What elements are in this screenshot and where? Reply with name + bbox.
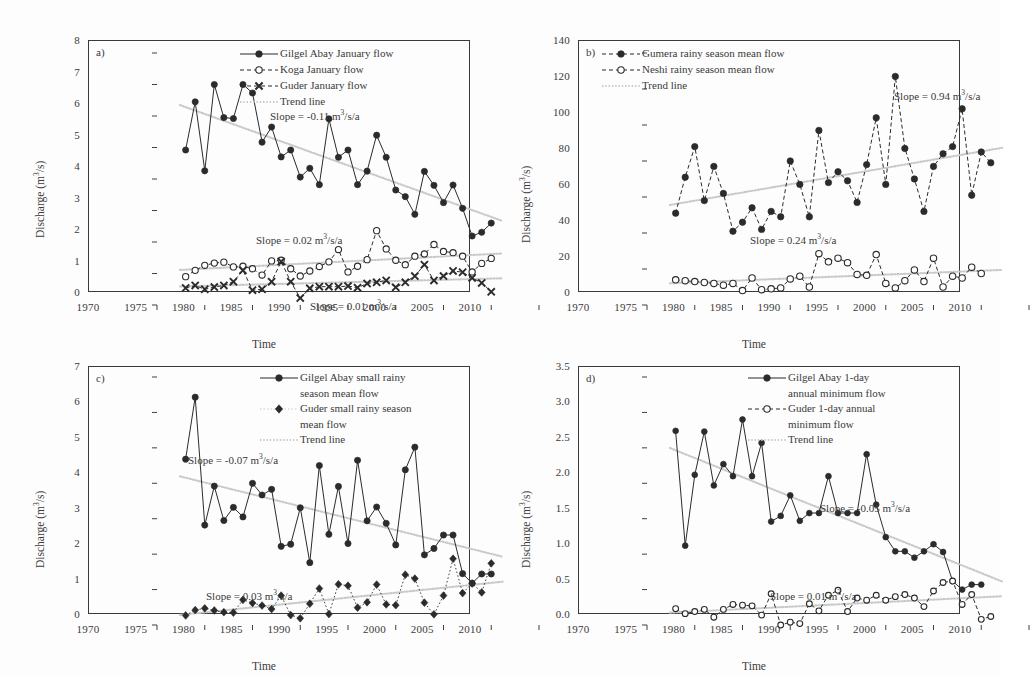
panel-c-xtick: 2005 bbox=[411, 623, 434, 635]
solid-filled-circle-icon bbox=[238, 46, 280, 61]
panel-d-xtick: 1970 bbox=[567, 623, 590, 635]
panel-c-xtick: 1980 bbox=[172, 623, 195, 635]
panel-c-ytick: 4 bbox=[32, 466, 80, 478]
panel-b-xtick: 1995 bbox=[805, 301, 828, 313]
legend-item[interactable]: Gumera rainy season mean flow bbox=[600, 46, 784, 61]
panel-b-xtick: 1990 bbox=[758, 301, 781, 313]
legend-item-label: Trend line bbox=[642, 78, 687, 93]
panel-c-xlabel: Time bbox=[252, 660, 276, 672]
panel-a-xtick: 1980 bbox=[172, 301, 195, 313]
panel-d-ytick: 1.0 bbox=[522, 537, 570, 549]
panel-b-legend: Gumera rainy season mean flowNeshi rainy… bbox=[600, 46, 784, 94]
legend-item-label: Gilgel Abay January flow bbox=[280, 46, 393, 61]
panel-b-ytick: 140 bbox=[522, 34, 570, 46]
panel-b-xlabel: Time bbox=[742, 338, 766, 350]
panel-c: Discharge (m3/s) c) Time 012345671970197… bbox=[20, 356, 490, 675]
panel-d-xtick: 1985 bbox=[710, 623, 733, 635]
panel-d-slope-annotation-1: Slope = 0.01 m3/s/a bbox=[770, 588, 856, 602]
panel-c-xtick: 1995 bbox=[315, 623, 338, 635]
panel-b-xtick: 1975 bbox=[614, 301, 637, 313]
panel-a-xtick: 1990 bbox=[268, 301, 291, 313]
panel-b-slope-annotation-0: Slope = 0.94 m3/s/a bbox=[894, 88, 980, 102]
panel-b-xtick: 2000 bbox=[853, 301, 876, 313]
panel-a-xlabel: Time bbox=[252, 338, 276, 350]
legend-item[interactable]: Koga January flow bbox=[238, 62, 393, 77]
panel-b-ytick: 0 bbox=[522, 286, 570, 298]
panel-b-xtick: 2005 bbox=[901, 301, 924, 313]
dashed-open-circle-icon bbox=[600, 62, 642, 77]
panel-c-xtick: 2000 bbox=[363, 623, 386, 635]
panel-b-ytick: 80 bbox=[522, 142, 570, 154]
panel-d-ytick: 3.0 bbox=[522, 395, 570, 407]
panel-a: Discharge (m3/s) a) Time 012345678197019… bbox=[20, 28, 490, 358]
panel-c-ytick: 6 bbox=[32, 395, 80, 407]
legend-item-label: Trend line bbox=[300, 432, 345, 447]
panel-c-slope-annotation-1: Slope = 0.03 m3/s/a bbox=[206, 588, 292, 602]
legend-item-label: Gilgel Abay 1-day bbox=[788, 370, 869, 385]
legend-item-label: Guder small rainy season bbox=[300, 401, 412, 416]
panel-d-xtick: 2005 bbox=[901, 623, 924, 635]
legend-item[interactable]: Gilgel Abay January flow bbox=[238, 46, 393, 61]
panel-d-ytick: 3.5 bbox=[522, 360, 570, 372]
panel-b-ytick: 40 bbox=[522, 214, 570, 226]
legend-item[interactable]: Trend line bbox=[258, 432, 412, 447]
legend-item-label-continued: mean flow bbox=[300, 417, 412, 432]
panel-b: Discharge (m3/s) b) Time 020406080100120… bbox=[510, 28, 980, 358]
dotted-grey-line-icon bbox=[258, 432, 300, 447]
legend-item-label: Koga January flow bbox=[280, 62, 364, 77]
dashed-cross-icon bbox=[238, 78, 280, 93]
dashed-open-circle-icon bbox=[238, 62, 280, 77]
dotted-grey-line-icon bbox=[600, 78, 642, 93]
panel-a-ytick: 3 bbox=[32, 192, 80, 204]
legend-item[interactable]: Gilgel Abay small rainy bbox=[258, 370, 412, 385]
legend-item[interactable]: Trend line bbox=[746, 432, 886, 447]
panel-a-ytick: 8 bbox=[32, 34, 80, 46]
panel-a-ytick: 7 bbox=[32, 66, 80, 78]
panel-d-ytick: 2.5 bbox=[522, 431, 570, 443]
legend-item[interactable]: Guder January flow bbox=[238, 78, 393, 93]
legend-item-label: Guder 1-day annual bbox=[788, 401, 875, 416]
dashed-filled-circle-icon bbox=[600, 46, 642, 61]
panel-b-ytick: 100 bbox=[522, 106, 570, 118]
panel-c-xtick: 1970 bbox=[77, 623, 100, 635]
panel-c-xtick: 1985 bbox=[220, 623, 243, 635]
legend-item-label: Neshi rainy season mean flow bbox=[642, 62, 775, 77]
panel-a-slope-annotation-0: Slope = -0.11 m3/s/a bbox=[270, 108, 360, 122]
panel-d-xtick: 1975 bbox=[614, 623, 637, 635]
panel-d-xtick: 1990 bbox=[758, 623, 781, 635]
panel-b-ytick: 120 bbox=[522, 70, 570, 82]
panel-d-xtick: 2010 bbox=[949, 623, 972, 635]
panel-d-xtick: 1980 bbox=[662, 623, 685, 635]
panel-d-legend: Gilgel Abay 1-dayannual minimum flowGude… bbox=[746, 370, 886, 448]
solid-filled-circle-icon bbox=[746, 370, 788, 385]
panel-c-ytick: 1 bbox=[32, 573, 80, 585]
panel-d: Discharge (m3/s) d) Time 0.00.51.01.52.0… bbox=[510, 356, 980, 675]
dashed-open-circle-icon bbox=[746, 401, 788, 416]
panel-a-xtick: 1975 bbox=[124, 301, 147, 313]
legend-item-label: Guder January flow bbox=[280, 78, 367, 93]
panel-c-ytick: 3 bbox=[32, 502, 80, 514]
panel-a-xtick: 2005 bbox=[411, 301, 434, 313]
legend-item-label: Gumera rainy season mean flow bbox=[642, 46, 784, 61]
panel-a-xtick: 2010 bbox=[459, 301, 482, 313]
panel-d-xtick: 1995 bbox=[805, 623, 828, 635]
legend-item-label-continued: annual minimum flow bbox=[788, 386, 886, 401]
panel-c-ytick: 2 bbox=[32, 537, 80, 549]
panel-a-ytick: 2 bbox=[32, 223, 80, 235]
legend-item[interactable]: Guder 1-day annual bbox=[746, 401, 886, 416]
panel-d-ytick: 0.0 bbox=[522, 608, 570, 620]
panel-c-xtick: 2010 bbox=[459, 623, 482, 635]
legend-item[interactable]: Guder small rainy season bbox=[258, 401, 412, 416]
panel-d-letter: d) bbox=[586, 372, 595, 384]
panel-c-ytick: 0 bbox=[32, 608, 80, 620]
legend-item[interactable]: Trend line bbox=[600, 78, 784, 93]
panel-c-xtick: 1990 bbox=[268, 623, 291, 635]
panel-d-ytick: 1.5 bbox=[522, 502, 570, 514]
legend-item[interactable]: Neshi rainy season mean flow bbox=[600, 62, 784, 77]
panel-b-letter: b) bbox=[586, 46, 595, 58]
panel-b-ytick: 60 bbox=[522, 178, 570, 190]
legend-item[interactable]: Gilgel Abay 1-day bbox=[746, 370, 886, 385]
panel-a-xtick: 1970 bbox=[77, 301, 100, 313]
legend-item[interactable]: Trend line bbox=[238, 94, 393, 109]
panel-c-legend: Gilgel Abay small rainyseason mean flowG… bbox=[258, 370, 412, 448]
